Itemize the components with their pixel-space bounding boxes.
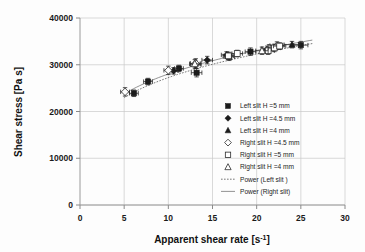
- legend-label: Right slit H =5 mm: [240, 151, 295, 159]
- y-axis-title: Shear stress [Pa s]: [13, 67, 24, 157]
- marker-filled-square: [298, 43, 303, 48]
- marker-open-diamond: [225, 139, 232, 146]
- legend-label: Left slit H =4.5 mm: [240, 115, 296, 122]
- y-tick-label: 10000: [49, 153, 73, 163]
- legend-label: Right slit H =4 mm: [240, 163, 295, 171]
- marker-open-square: [226, 53, 232, 59]
- legend-label: Left slit H =5 mm: [240, 102, 290, 109]
- y-tick-label: 30000: [49, 60, 73, 70]
- chart-legend: Left slit H =5 mmLeft slit H =4.5 mmLeft…: [221, 102, 300, 195]
- trendline-left-slit: [124, 44, 312, 98]
- marker-filled-square: [248, 49, 253, 54]
- trendline-layer: [124, 40, 312, 97]
- x-axis-tick-labels: 051015202530: [78, 213, 350, 223]
- legend-label: Right slit H =4.5 mm: [240, 139, 300, 147]
- trendline-right-slit: [124, 40, 312, 94]
- marker-filled-diamond: [225, 115, 231, 121]
- legend-label: Power (Right slit): [240, 188, 290, 196]
- y-tick-label: 20000: [49, 107, 73, 117]
- marker-open-diamond: [121, 88, 128, 95]
- x-tick-label: 0: [78, 213, 83, 223]
- x-axis-title: Apparent shear rate [s-1]: [154, 234, 270, 246]
- legend-label: Left slit H =4 mm: [240, 127, 290, 134]
- x-tick-label: 20: [252, 213, 262, 223]
- marker-open-triangle: [225, 164, 231, 170]
- y-tick-label: 0: [68, 200, 73, 210]
- y-tick-label: 40000: [49, 13, 73, 23]
- x-tick-label: 30: [340, 213, 350, 223]
- marker-filled-square: [145, 79, 150, 84]
- x-tick-label: 25: [296, 213, 306, 223]
- x-tick-label: 5: [122, 213, 127, 223]
- x-tick-label: 15: [208, 213, 218, 223]
- x-tick-label: 10: [164, 213, 174, 223]
- marker-open-square: [277, 43, 283, 49]
- chart-figure: 051015202530 010000200003000040000 Left …: [0, 0, 365, 252]
- marker-open-square: [234, 51, 240, 57]
- marker-filled-square: [131, 91, 136, 96]
- marker-filled-triangle: [225, 127, 231, 132]
- legend-label: Power (Left slit ): [240, 176, 288, 184]
- marker-open-square: [225, 152, 230, 157]
- marker-filled-square: [194, 70, 199, 75]
- y-axis-tick-labels: 010000200003000040000: [49, 13, 73, 210]
- grid-layer: [80, 18, 345, 205]
- axes-layer: [76, 18, 345, 209]
- data-points-layer: [121, 41, 308, 96]
- shear-stress-vs-shear-rate-chart: 051015202530 010000200003000040000 Left …: [0, 0, 365, 252]
- marker-filled-square: [226, 104, 231, 109]
- marker-filled-square: [176, 66, 181, 71]
